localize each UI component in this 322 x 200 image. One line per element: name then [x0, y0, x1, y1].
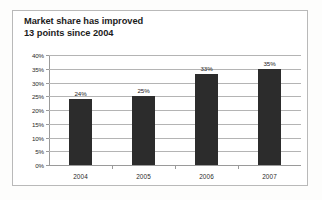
x-axis-tick [175, 165, 176, 169]
bar-value-label: 24% [74, 90, 86, 97]
y-axis-tick [46, 151, 49, 152]
y-axis-label: 40% [32, 52, 44, 59]
gridline [49, 55, 301, 56]
y-axis-label: 25% [32, 93, 44, 100]
bar-value-label: 33% [200, 65, 212, 72]
chart-title-line-1: Market share has improved [24, 15, 284, 27]
chart-canvas: Market share has improved 13 points sinc… [0, 0, 322, 200]
y-axis-label: 0% [35, 162, 44, 169]
y-axis-tick [46, 96, 49, 97]
y-axis-tick [46, 83, 49, 84]
y-axis-tick [46, 110, 49, 111]
y-axis-tick [46, 165, 49, 166]
y-axis-label: 5% [35, 148, 44, 155]
x-axis-tick [238, 165, 239, 169]
bar-value-label: 25% [137, 87, 149, 94]
x-axis-label: 2006 [199, 173, 214, 180]
bar-value-label: 35% [263, 60, 275, 67]
y-axis-label: 20% [32, 107, 44, 114]
bar[interactable]: 35% [258, 69, 281, 165]
x-axis-label: 2007 [262, 173, 277, 180]
x-axis-tick [112, 165, 113, 169]
y-axis-label: 35% [32, 65, 44, 72]
y-axis-tick [46, 55, 49, 56]
bar[interactable]: 25% [132, 96, 155, 165]
y-axis-label: 15% [32, 120, 44, 127]
plot-area: 0%5%10%15%20%25%30%35%40% 24%25%33%35% [49, 55, 301, 165]
chart-title-line-2: 13 points since 2004 [24, 27, 284, 39]
y-axis-label: 10% [32, 134, 44, 141]
y-axis-tick [46, 124, 49, 125]
x-axis-label: 2005 [136, 173, 151, 180]
chart-frame: Market share has improved 13 points sinc… [12, 10, 308, 186]
bar[interactable]: 24% [69, 99, 92, 165]
chart-title: Market share has improved 13 points sinc… [24, 15, 284, 39]
y-axis-tick [46, 69, 49, 70]
bar[interactable]: 33% [195, 74, 218, 165]
y-axis-tick [46, 138, 49, 139]
y-axis-label: 30% [32, 79, 44, 86]
x-axis-label: 2004 [73, 173, 88, 180]
